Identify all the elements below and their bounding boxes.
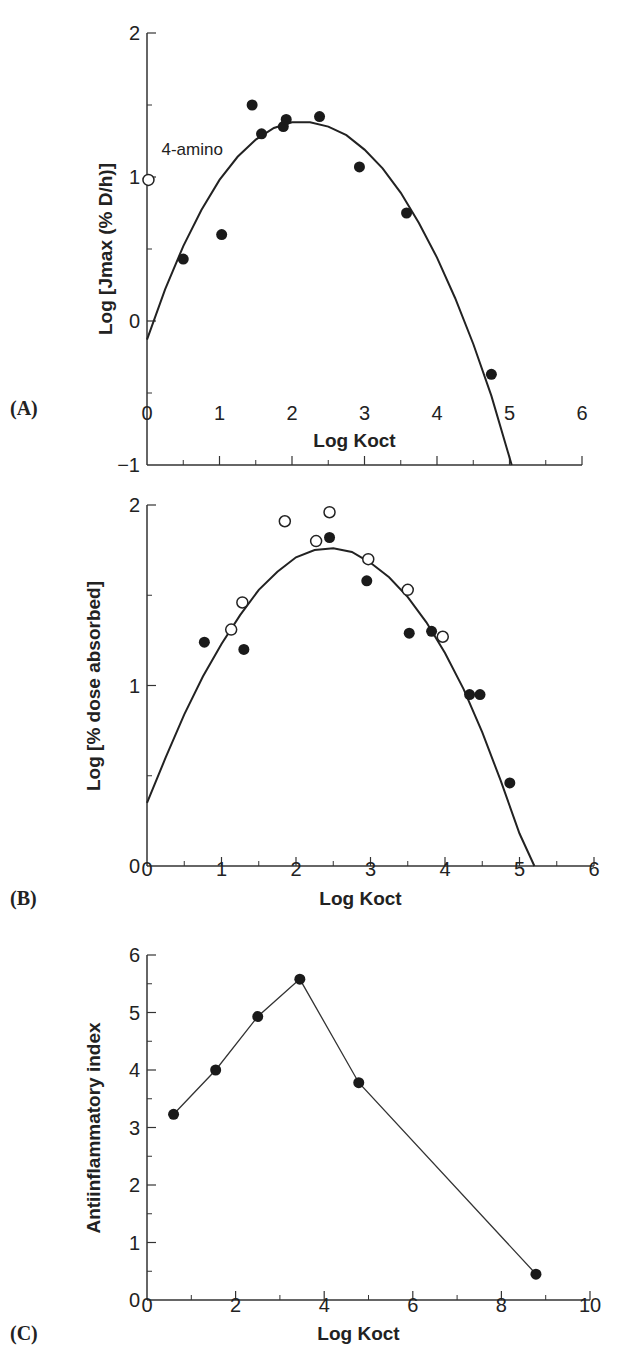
- x-axis-title: Log Koct: [319, 888, 402, 909]
- data-point-open: [311, 536, 322, 547]
- data-point-filled: [199, 637, 210, 648]
- y-tick-label: 6: [129, 944, 140, 966]
- y-tick-label: 5: [129, 1002, 140, 1024]
- x-tick-label: 8: [496, 1294, 507, 1316]
- x-tick-label: 3: [365, 858, 376, 880]
- series-line: [174, 979, 536, 1274]
- y-tick-label: 2: [129, 1174, 140, 1196]
- data-point-filled: [256, 128, 267, 139]
- data-point-filled: [294, 974, 305, 985]
- x-tick-label: 6: [588, 858, 599, 880]
- data-point-filled: [486, 369, 497, 380]
- panel-label: (B): [10, 887, 37, 910]
- chart-panel-a: 0123456−1012Log KoctLog [Jmax (% D/h)](A…: [10, 22, 588, 476]
- y-tick-label: 4: [129, 1059, 140, 1081]
- y-axis-title: Antiinflammatory index: [83, 1022, 104, 1234]
- y-axis-title: Log [% dose absorbed]: [83, 581, 104, 791]
- data-point-filled: [216, 229, 227, 240]
- data-point-filled: [464, 689, 475, 700]
- data-point-filled: [354, 161, 365, 172]
- data-point-filled: [247, 100, 258, 111]
- data-point-open: [437, 631, 448, 642]
- data-point-open: [324, 507, 335, 518]
- x-tick-label: 4: [319, 1294, 330, 1316]
- y-tick-label: 0: [129, 1289, 140, 1311]
- data-point-filled: [530, 1269, 541, 1280]
- x-tick-label: 1: [214, 402, 225, 424]
- fit-curve: [147, 548, 534, 866]
- y-tick-label: 1: [129, 1232, 140, 1254]
- data-point-filled: [281, 114, 292, 125]
- data-point-filled: [353, 1077, 364, 1088]
- figure: 0123456−1012Log KoctLog [Jmax (% D/h)](A…: [0, 0, 622, 1350]
- y-tick-label: 1: [129, 675, 140, 697]
- x-tick-label: 3: [359, 402, 370, 424]
- x-tick-label: 0: [141, 1294, 152, 1316]
- x-tick-label: 2: [230, 1294, 241, 1316]
- x-tick-label: 4: [439, 858, 450, 880]
- data-point-filled: [426, 626, 437, 637]
- x-tick-label: 2: [290, 858, 301, 880]
- data-point-filled: [401, 208, 412, 219]
- y-tick-label: 0: [129, 855, 140, 877]
- y-tick-label: 3: [129, 1117, 140, 1139]
- data-point-filled: [504, 777, 515, 788]
- data-point-filled: [404, 628, 415, 639]
- x-tick-label: 1: [216, 858, 227, 880]
- x-tick-label: 5: [504, 402, 515, 424]
- x-tick-label: 0: [141, 858, 152, 880]
- data-point-filled: [314, 111, 325, 122]
- data-point-filled: [252, 1011, 263, 1022]
- x-tick-label: 0: [141, 402, 152, 424]
- data-point-open: [226, 624, 237, 635]
- y-tick-label: 0: [129, 310, 140, 332]
- data-point-filled: [475, 689, 486, 700]
- x-tick-label: 6: [576, 402, 587, 424]
- y-tick-label: 2: [129, 22, 140, 44]
- data-point-open: [279, 516, 290, 527]
- data-point-open: [143, 174, 154, 185]
- data-point-filled: [238, 644, 249, 655]
- x-tick-label: 6: [407, 1294, 418, 1316]
- x-tick-label: 5: [514, 858, 525, 880]
- y-axis-title: Log [Jmax (% D/h)]: [95, 163, 116, 335]
- data-point-open: [363, 554, 374, 565]
- data-point-open: [237, 597, 248, 608]
- data-point-open: [402, 584, 413, 595]
- data-point-filled: [168, 1109, 179, 1120]
- x-tick-label: 10: [579, 1294, 601, 1316]
- data-point-filled: [210, 1065, 221, 1076]
- chart-panel-c: 02468100123456Log KoctAntiinflammatory i…: [10, 944, 601, 1345]
- data-point-filled: [178, 254, 189, 265]
- data-point-filled: [324, 532, 335, 543]
- fit-curve: [147, 122, 512, 465]
- panel-label: (A): [10, 397, 38, 420]
- chart-panel-b: 0123456012Log KoctLog [% dose absorbed](…: [10, 494, 600, 910]
- y-tick-label: 2: [129, 494, 140, 516]
- annotation-label: 4-amino: [162, 140, 223, 159]
- panel-label: (C): [10, 1322, 38, 1345]
- x-tick-label: 2: [286, 402, 297, 424]
- data-point-filled: [361, 575, 372, 586]
- x-axis-title: Log Koct: [313, 430, 396, 451]
- x-axis-title: Log Koct: [317, 1323, 400, 1344]
- x-tick-label: 4: [431, 402, 442, 424]
- y-tick-label: −1: [117, 454, 140, 476]
- y-tick-label: 1: [129, 166, 140, 188]
